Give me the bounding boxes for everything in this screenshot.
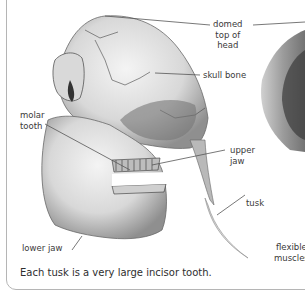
label-line: flexible — [274, 242, 305, 253]
label-domed-top-of-head: domed top of head — [213, 19, 243, 51]
label-line: upper — [230, 145, 255, 156]
label-line: muscles — [274, 253, 305, 264]
label-line: molar — [20, 110, 45, 121]
label-lower-jaw: lower jaw — [22, 243, 62, 254]
label-line: domed — [213, 19, 243, 30]
figure-caption: Each tusk is a very large incisor tooth. — [20, 267, 212, 278]
label-line: head — [213, 40, 243, 51]
label-flexible-muscles: flexible muscles — [274, 242, 305, 263]
label-tusk: tusk — [246, 198, 264, 209]
label-upper-jaw: upper jaw — [230, 145, 255, 166]
label-molar-tooth: molar tooth — [20, 110, 45, 131]
label-skull-bone: skull bone — [203, 70, 246, 81]
label-line: jaw — [230, 156, 255, 167]
label-line: tooth — [20, 121, 45, 132]
label-line: top of — [213, 30, 243, 41]
